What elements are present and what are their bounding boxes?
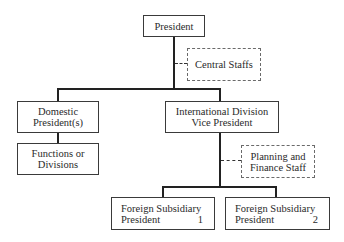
connector-central-staffs bbox=[175, 63, 187, 64]
node-planning-line1: Planning and bbox=[250, 151, 305, 162]
node-international-division: International Division Vice President bbox=[165, 101, 279, 133]
node-functions-divisions: Functions or Divisions bbox=[17, 143, 99, 175]
connector-to-foreign1 bbox=[162, 186, 164, 197]
connector-planning bbox=[221, 160, 241, 161]
node-functions-line2: Divisions bbox=[38, 159, 78, 170]
node-functions-line1: Functions or bbox=[32, 148, 85, 159]
node-foreign2-number: 2 bbox=[313, 214, 318, 225]
connector-top-bar bbox=[57, 88, 221, 90]
node-foreign-subsidiary-1: Foreign Subsidiary President 1 bbox=[111, 197, 215, 230]
node-foreign1-number: 1 bbox=[198, 214, 203, 225]
node-president: President bbox=[143, 15, 205, 37]
node-domestic-line2: President(s) bbox=[33, 117, 83, 128]
node-domestic-presidents: Domestic President(s) bbox=[17, 101, 99, 133]
node-central-staffs-label: Central Staffs bbox=[195, 59, 253, 70]
node-foreign-subsidiary-2: Foreign Subsidiary President 2 bbox=[225, 197, 330, 230]
node-president-label: President bbox=[154, 21, 193, 32]
node-international-line1: International Division bbox=[176, 106, 268, 117]
connector-bottom-bar bbox=[162, 186, 277, 188]
node-planning-finance: Planning and Finance Staff bbox=[241, 145, 315, 178]
node-international-line2: Vice President bbox=[192, 117, 253, 128]
connector-domestic-functions bbox=[57, 133, 59, 143]
node-planning-line2: Finance Staff bbox=[250, 162, 306, 173]
node-foreign2-label: President bbox=[235, 214, 274, 225]
node-foreign2-line1: Foreign Subsidiary bbox=[235, 203, 315, 214]
node-foreign1-label: President bbox=[121, 214, 160, 225]
node-central-staffs: Central Staffs bbox=[187, 48, 261, 81]
connector-to-domestic bbox=[57, 88, 59, 101]
connector-to-international bbox=[219, 88, 221, 101]
node-foreign1-line1: Foreign Subsidiary bbox=[121, 203, 201, 214]
connector-to-foreign2 bbox=[275, 186, 277, 197]
node-domestic-line1: Domestic bbox=[38, 106, 78, 117]
